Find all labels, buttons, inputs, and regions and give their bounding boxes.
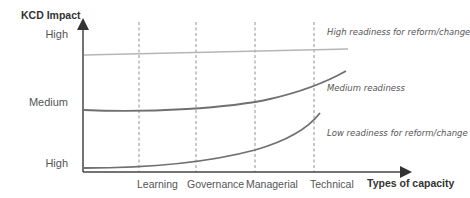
x-label-governance: Governance bbox=[187, 178, 244, 190]
y-label-high-top: High bbox=[0, 28, 68, 40]
medium-readiness-curve bbox=[84, 71, 346, 111]
y-label-high-bottom: High bbox=[0, 157, 68, 169]
annotation-medium-readiness: Medium readiness bbox=[327, 83, 405, 93]
low-readiness-curve bbox=[84, 113, 320, 168]
x-axis-title: Types of capacity bbox=[367, 177, 454, 189]
y-axis-title: KCD Impact bbox=[21, 9, 81, 21]
annotation-high-readiness: High readiness for reform/change bbox=[327, 27, 470, 37]
category-gridlines bbox=[139, 22, 314, 172]
x-label-learning: Learning bbox=[137, 178, 178, 190]
x-label-managerial: Managerial bbox=[246, 178, 298, 190]
annotation-low-readiness: Low readiness for reform/change bbox=[327, 128, 468, 138]
x-label-technical: Technical bbox=[310, 178, 354, 190]
high-readiness-line bbox=[84, 49, 348, 55]
y-label-medium: Medium bbox=[0, 96, 68, 108]
